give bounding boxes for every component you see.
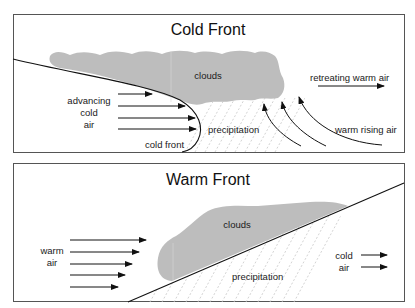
warm-front-panel: Warm Front xyxy=(14,164,405,303)
cold-air-label-1: cold xyxy=(335,250,352,261)
warm-front-precipitation-label: precipitation xyxy=(232,271,283,282)
cold-front-precipitation-label: precipitation xyxy=(208,124,259,135)
advancing-label-2: cold xyxy=(80,107,97,118)
cold-front-title: Cold Front xyxy=(171,21,246,38)
cold-front-label: cold front xyxy=(145,139,184,150)
cold-air-label-2: air xyxy=(339,262,350,273)
warm-air-label-2: air xyxy=(47,257,58,268)
warm-front-title: Warm Front xyxy=(166,171,250,188)
warm-front-cloud xyxy=(158,202,348,281)
fronts-diagram: Cold Front clouds xyxy=(0,0,415,308)
advancing-label-3: air xyxy=(84,119,95,130)
warm-front-clouds-label: clouds xyxy=(223,219,251,230)
advancing-label-1: advancing xyxy=(67,95,110,106)
retreating-warm-air-label: retreating warm air xyxy=(310,72,389,83)
cold-front-panel: Cold Front clouds xyxy=(13,15,405,153)
cold-front-clouds-label: clouds xyxy=(194,70,222,81)
warm-rising-air-label: warm rising air xyxy=(334,124,397,135)
warm-air-label-1: warm xyxy=(39,245,63,256)
